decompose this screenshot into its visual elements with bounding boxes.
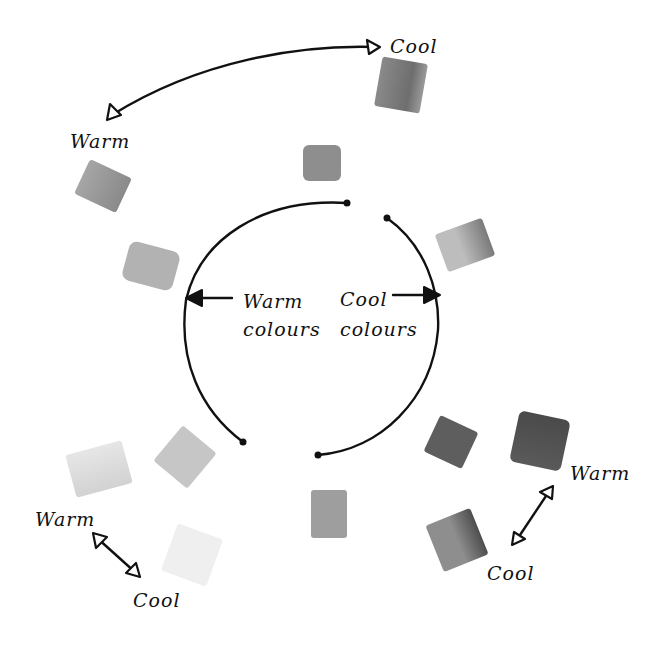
swatch-top: [303, 145, 341, 181]
top-cool-arrowhead: [367, 40, 380, 54]
label-bottom-right-warm: Warm: [570, 462, 630, 484]
label-top-warm: Warm: [70, 130, 130, 152]
label-warm-colours-line2: colours: [243, 318, 321, 340]
label-warm-colours-line1: Warm: [243, 290, 303, 312]
label-top-cool: Cool: [390, 35, 438, 57]
bottom-right-cool-arrowhead: [512, 532, 525, 545]
bottom-right-arrow-line: [516, 490, 550, 541]
label-bottom-right-cool: Cool: [487, 562, 535, 584]
ink-drawing: [0, 0, 659, 645]
swatch-bottom-right-warm: [509, 410, 571, 472]
colour-wheel-diagram: Cool Warm Warm colours Cool colours Warm…: [0, 0, 659, 645]
top-warm-cool-arrow: [112, 47, 374, 115]
label-cool-colours-line1: Cool: [340, 288, 388, 310]
bottom-right-warm-arrowhead: [540, 486, 553, 499]
top-warm-arrowhead: [107, 104, 121, 120]
label-cool-colours-line2: colours: [340, 318, 418, 340]
label-bottom-left-warm: Warm: [35, 508, 95, 530]
swatch-top-right-cool: [374, 56, 428, 113]
label-bottom-left-cool: Cool: [133, 589, 181, 611]
swatch-bottom: [311, 490, 347, 538]
